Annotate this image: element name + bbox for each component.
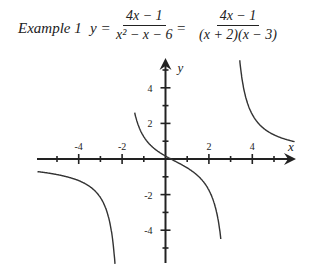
x-tick-label: -4 [75, 141, 83, 152]
tick-labels: 24-4-224-2-4xy [75, 60, 294, 236]
y-tick-label: -4 [144, 225, 152, 236]
curve-branch-1 [38, 172, 116, 264]
y-axis-label: y [176, 60, 184, 75]
y-tick-label: 4 [148, 83, 153, 94]
curve-branch-2 [135, 113, 221, 239]
x-tick-label: 2 [206, 141, 211, 152]
x-axis-label: x [287, 139, 294, 154]
axes [37, 58, 296, 263]
curve-branch-3 [240, 60, 295, 142]
x-tick-label: 4 [250, 141, 255, 152]
y-tick-label: -2 [144, 190, 152, 201]
function-plot: 24-4-224-2-4xy [0, 0, 316, 273]
x-tick-label: -2 [118, 141, 126, 152]
y-tick-label: 2 [148, 118, 153, 129]
